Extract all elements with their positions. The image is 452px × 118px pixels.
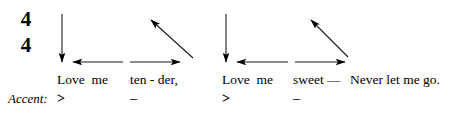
lyric-phrase: Never let me go. [350, 72, 440, 88]
measure-2-arrows [226, 14, 348, 62]
lyric-syllable: Love me [57, 72, 108, 88]
lyric-syllable: sweet — [293, 72, 341, 88]
beat-4-up-diagonal-arrow [311, 20, 348, 57]
figure-canvas: 4 4 Love me ten - der, Love me sweet — N… [0, 0, 452, 118]
measure-1-arrows [62, 14, 193, 62]
accent-row-label: Accent: [8, 91, 48, 107]
accent-mark: > [222, 91, 230, 107]
accent-mark: > [57, 91, 65, 107]
accent-mark: – [130, 91, 137, 107]
lyric-syllable: ten - der, [130, 72, 178, 88]
lyric-syllable: Love me [222, 72, 273, 88]
beat-4-up-diagonal-arrow [151, 20, 193, 58]
accent-mark: – [293, 91, 300, 107]
